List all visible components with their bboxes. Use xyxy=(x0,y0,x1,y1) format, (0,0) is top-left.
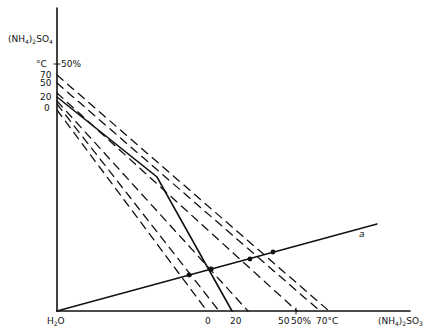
origin-label: H2O xyxy=(47,316,65,329)
y-axis-percent-label: 50% xyxy=(61,59,81,69)
line-a xyxy=(57,224,377,311)
intersection-point xyxy=(271,250,276,255)
isotherm-20-dashed xyxy=(57,101,248,311)
x-axis-label: (NH4)2SO3 xyxy=(378,316,423,329)
y-tick-20: 20 xyxy=(40,92,51,102)
intersection-point xyxy=(187,273,192,278)
isotherm-20b-dashed xyxy=(57,104,219,311)
x-tick-50pct: 50% xyxy=(291,316,311,326)
x-tick-50: 50 xyxy=(278,316,289,326)
intersection-point xyxy=(208,266,213,271)
intersection-point xyxy=(248,257,253,262)
isotherm-70-dashed xyxy=(57,75,329,311)
y-tick-0: 0 xyxy=(44,103,50,113)
x-tick-70c: 70°C xyxy=(316,316,338,326)
line-a-label: a xyxy=(359,229,365,239)
x-tick-20: 20 xyxy=(230,316,241,326)
phase-diagram xyxy=(0,0,424,334)
x-tick-0: 0 xyxy=(205,316,211,326)
y-tick-50: 50 xyxy=(40,78,51,88)
y-axis-unit-label: °C xyxy=(36,59,47,69)
y-axis-label: (NH4)2SO4 xyxy=(8,34,53,47)
